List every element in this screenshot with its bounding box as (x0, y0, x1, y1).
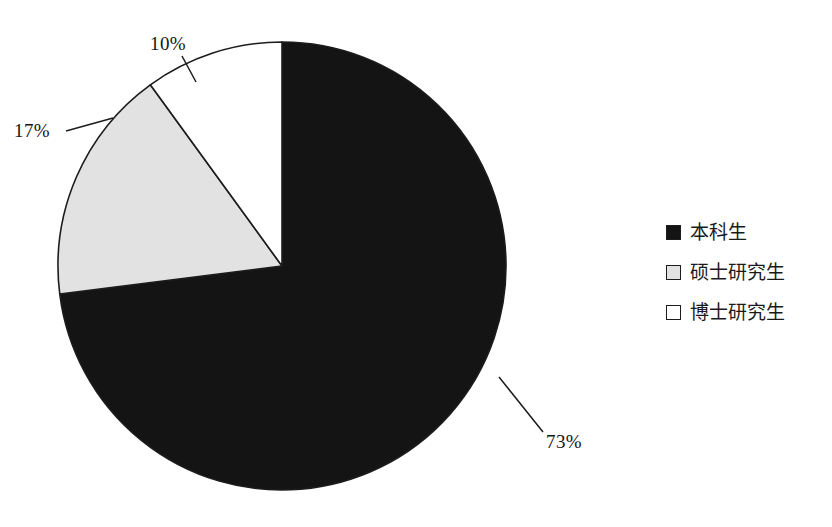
legend-label-doctoral: 博士研究生 (690, 303, 785, 322)
pie-chart: 73% 17% 10% 本科生 硕士研究生 博士研究生 (0, 0, 832, 527)
legend-swatch-icon-doctoral (666, 305, 681, 320)
data-label-10: 10% (150, 33, 186, 54)
legend-swatch-icon-undergraduate (666, 225, 681, 240)
data-label-17: 17% (14, 120, 50, 141)
legend-swatch-icon-master (666, 265, 681, 280)
legend-item-doctoral[interactable]: 博士研究生 (666, 292, 826, 332)
legend-item-master[interactable]: 硕士研究生 (666, 252, 826, 292)
data-label-73: 73% (546, 431, 582, 452)
legend-label-master: 硕士研究生 (690, 263, 785, 282)
legend-item-undergraduate[interactable]: 本科生 (666, 212, 826, 252)
legend-label-undergraduate: 本科生 (690, 223, 747, 242)
chart-legend: 本科生 硕士研究生 博士研究生 (666, 212, 826, 332)
leader-line-10 (499, 377, 543, 432)
